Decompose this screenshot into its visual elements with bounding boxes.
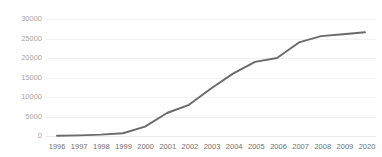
- line-chart: 050001000015000200002500030000 199619971…: [0, 0, 382, 157]
- x-tick-label-2002: 2002: [179, 141, 201, 155]
- y-tick-label-15000: 15000: [0, 74, 42, 82]
- x-axis: 1996199719981999200020012002200320042005…: [46, 141, 378, 155]
- x-tick-label-2005: 2005: [245, 141, 267, 155]
- x-tick-label-1999: 1999: [112, 141, 134, 155]
- y-axis: 050001000015000200002500030000: [0, 19, 42, 136]
- x-tick-label-2007: 2007: [290, 141, 312, 155]
- y-tick-label-30000: 30000: [0, 15, 42, 23]
- x-tick-label-2004: 2004: [223, 141, 245, 155]
- x-tick-label-2020: 2020: [356, 141, 378, 155]
- y-tick-label-10000: 10000: [0, 93, 42, 101]
- y-tick-label-0: 0: [0, 132, 42, 140]
- y-tick-label-25000: 25000: [0, 35, 42, 43]
- x-tick-label-2001: 2001: [157, 141, 179, 155]
- y-tick-label-20000: 20000: [0, 54, 42, 62]
- gridline-0: [46, 136, 376, 137]
- x-tick-label-2006: 2006: [267, 141, 289, 155]
- x-tick-label-2009: 2009: [334, 141, 356, 155]
- series-line-series-1: [57, 32, 365, 136]
- y-tick-label-5000: 5000: [0, 113, 42, 121]
- x-tick-label-1997: 1997: [68, 141, 90, 155]
- x-tick-label-1998: 1998: [90, 141, 112, 155]
- x-tick-label-2008: 2008: [312, 141, 334, 155]
- x-tick-label-2003: 2003: [201, 141, 223, 155]
- series-line-layer: [46, 19, 376, 136]
- plot-area: [46, 19, 376, 136]
- x-tick-label-1996: 1996: [46, 141, 68, 155]
- x-tick-label-2000: 2000: [135, 141, 157, 155]
